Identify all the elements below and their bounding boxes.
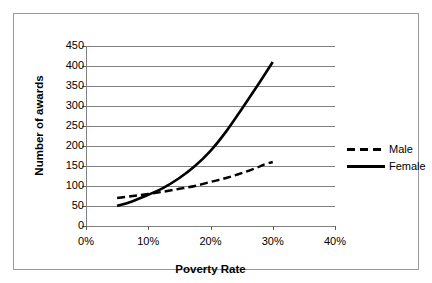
legend-item-female: Female [345,159,429,173]
plot-area [86,46,335,226]
y-axis-tick-label: 400 [44,60,84,71]
x-axis-tick-label: 10% [126,236,170,247]
x-axis-tick [335,226,336,230]
y-axis-tick-label: 50 [44,200,84,211]
x-axis-tick-label: 20% [189,236,233,247]
y-axis-tick-label: 100 [44,180,84,191]
y-axis-tick-label: 300 [44,100,84,111]
legend-swatch-female [347,165,385,168]
y-axis-tick-label: 250 [44,120,84,131]
chart-frame: 050100150200250300350400450 0%10%20%30%4… [13,13,419,270]
series-lines [86,46,335,227]
x-axis-tick-label: 40% [313,236,357,247]
y-axis-tick-label: 200 [44,140,84,151]
y-axis-tick-label: 450 [44,40,84,51]
legend-label: Female [389,159,426,173]
y-axis-title: Number of awards [33,56,46,196]
x-axis-title: Poverty Rate [86,263,335,276]
chart-figure: 050100150200250300350400450 0%10%20%30%4… [0,0,432,283]
y-axis-tick-label: 150 [44,160,84,171]
series-line-female [117,62,273,206]
chart-legend: MaleFemale [345,142,429,176]
y-axis-tick-label: 350 [44,80,84,91]
legend-item-male: Male [345,142,429,156]
y-axis-tick-label: 0 [44,220,84,231]
x-axis-tick-label: 0% [64,236,108,247]
legend-label: Male [389,142,413,156]
legend-swatch-male [347,148,385,151]
x-axis-tick-label: 30% [251,236,295,247]
